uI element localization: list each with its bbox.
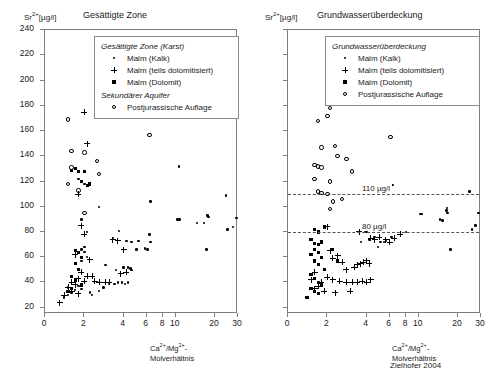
marker-dot-icon <box>101 57 127 60</box>
data-point-dot <box>446 207 448 209</box>
y-tick-mark <box>283 256 287 257</box>
data-point-circle <box>66 117 70 121</box>
legend-items-group1-left: Malm (Kalk)Malm (teils dolomitisiert)Mal… <box>101 52 231 88</box>
data-point-dot <box>80 288 82 290</box>
y-tick-label: 220 <box>10 49 34 57</box>
y-tick-label: 140 <box>10 150 34 158</box>
data-point-plus <box>343 267 349 273</box>
data-point-plus <box>115 238 121 244</box>
data-point-dot <box>379 241 381 243</box>
legend-item[interactable]: Postjurassische Auflage <box>101 101 231 113</box>
data-point-square <box>323 225 326 228</box>
data-point-dot <box>91 294 93 296</box>
y-tick-mark <box>40 130 44 131</box>
x-tick-mark <box>175 313 176 317</box>
data-point-square <box>66 290 69 293</box>
data-point-square <box>320 240 323 243</box>
data-point-dot <box>130 241 132 243</box>
y-tick-label: 180 <box>10 100 34 108</box>
marker-glyph <box>343 80 346 83</box>
x-tick-label: 2 <box>70 319 96 328</box>
y-tick-mark <box>40 256 44 257</box>
x-tick-mark <box>162 313 163 317</box>
data-point-plus <box>376 234 382 240</box>
data-point-square <box>83 170 86 173</box>
data-point-square <box>309 238 312 241</box>
y-tick-mark <box>283 29 287 30</box>
data-point-plus <box>84 141 90 147</box>
marker-square-icon <box>332 80 358 83</box>
y-tick-mark <box>283 281 287 282</box>
data-point-plus <box>81 231 87 237</box>
data-point-dot <box>148 233 150 235</box>
data-point-plus <box>339 259 345 265</box>
data-point-square <box>77 170 80 173</box>
y-tick-mark <box>40 105 44 106</box>
data-point-dot <box>178 165 180 167</box>
data-point-plus <box>337 278 343 284</box>
data-point-plus <box>368 277 374 283</box>
legend-item[interactable]: Malm (Dolomit) <box>332 76 472 88</box>
x-axis-title-right: Ca2+/Mg2+- Molverhältnis <box>392 340 487 364</box>
data-point-square <box>317 292 320 295</box>
data-point-circle <box>69 149 73 153</box>
y-tick-mark <box>40 206 44 207</box>
data-point-circle <box>328 207 332 211</box>
data-point-dot <box>146 248 148 250</box>
data-point-circle <box>319 165 323 169</box>
legend-item[interactable]: Malm (Kalk) <box>332 52 472 64</box>
panel-title-right: Grundwasserüberdeckung <box>317 10 423 20</box>
x-tick-mark <box>326 313 327 317</box>
marker-square-icon <box>101 80 127 83</box>
legend-items-group2-left: Postjurassische Auflage <box>101 101 231 113</box>
legend-item[interactable]: Malm (teils dolomitisiert) <box>332 64 472 76</box>
legend-item[interactable]: Malm (teils dolomitisiert) <box>101 64 231 76</box>
data-point-circle <box>97 172 101 176</box>
legend-item[interactable]: Malm (Kalk) <box>101 52 231 64</box>
data-point-square <box>320 256 323 259</box>
y-tick-label: 240 <box>10 24 34 32</box>
data-point-plus <box>78 223 84 229</box>
data-point-circle <box>335 154 339 158</box>
data-point-dot <box>125 240 127 242</box>
data-point-plus <box>75 291 81 297</box>
data-point-circle <box>82 211 86 215</box>
y-tick-label: 20 <box>10 302 34 310</box>
legend-item[interactable]: Malm (Dolomit) <box>101 76 231 88</box>
x-tick-mark <box>457 313 458 317</box>
figure-credit: Zielhofer 2004 <box>390 361 441 370</box>
data-point-circle <box>344 157 348 161</box>
data-point-dot <box>83 251 85 253</box>
data-point-dot <box>118 230 120 232</box>
data-point-dot <box>80 218 82 220</box>
data-point-dot <box>149 200 151 202</box>
y-tick-mark <box>283 155 287 156</box>
marker-glyph <box>113 57 116 60</box>
data-point-dot <box>98 206 100 208</box>
data-point-square <box>77 251 80 254</box>
legend-item[interactable]: Postjurassische Auflage <box>332 88 472 100</box>
y-axis-label-left: Sr2+[µg/l] <box>24 11 56 22</box>
data-point-dot <box>102 286 104 288</box>
data-point-square <box>309 253 312 256</box>
data-point-plus <box>123 269 129 275</box>
data-point-square <box>313 259 316 262</box>
data-point-dot <box>377 246 379 248</box>
data-point-square <box>80 256 83 259</box>
marker-circle-icon <box>332 92 358 96</box>
data-point-circle <box>147 133 151 137</box>
data-point-dot <box>135 248 137 250</box>
y-tick-mark <box>283 130 287 131</box>
panel-gesaettigte-zone: Sr2+[µg/l] Gesättigte Zone 2040608010012… <box>0 0 244 379</box>
data-point-square <box>70 287 73 290</box>
data-point-circle <box>316 119 320 123</box>
data-point-circle <box>328 106 332 110</box>
y-tick-mark <box>283 54 287 55</box>
data-point-square <box>86 184 89 187</box>
x-tick-mark <box>146 313 147 317</box>
legend-items-group1-right: Malm (Kalk)Malm (teils dolomitisiert)Mal… <box>332 52 472 100</box>
data-point-square <box>331 248 334 251</box>
data-point-circle <box>312 177 316 181</box>
data-point-circle <box>69 165 73 169</box>
y-tick-label: 160 <box>10 125 34 133</box>
